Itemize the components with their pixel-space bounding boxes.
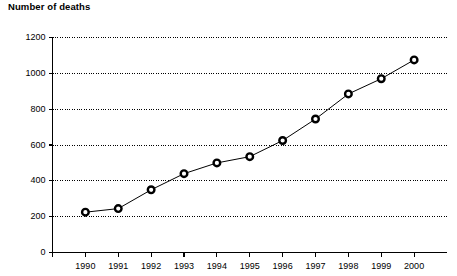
y-tick-label: 400 [30,175,45,185]
y-tick-label: 600 [30,140,45,150]
data-point-marker [181,170,188,177]
data-point-marker [411,57,418,64]
y-tick-label: 800 [30,104,45,114]
data-point-marker [345,91,352,98]
data-point-marker [82,209,89,216]
gridlines-group [53,38,448,217]
data-point-marker [214,160,221,167]
chart-container: Number of deaths 020040060080010001200 1… [0,0,457,276]
y-tick-label: 0 [40,247,45,257]
data-point-marker [378,75,385,82]
data-point-marker [312,116,319,123]
data-point-marker [246,153,253,160]
y-tick-label: 200 [30,211,45,221]
data-point-markers-group [82,57,417,216]
x-tick-label: 2000 [394,261,434,271]
data-point-marker [279,137,286,144]
y-tick-label: 1000 [25,68,45,78]
line-chart-plot [0,0,457,276]
series-line [85,60,414,212]
data-line-group [85,60,414,212]
data-point-marker [115,205,122,212]
data-point-marker [148,186,155,193]
y-tick-label: 1200 [25,32,45,42]
